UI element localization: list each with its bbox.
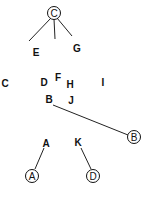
label-h: H [66,79,73,90]
label-i: I [102,77,105,88]
circle-node-d-label: D [89,171,96,182]
label-a: A [42,138,49,149]
label-k: K [74,137,82,148]
edge-c-to-g [57,18,72,36]
circle-node-d: D [87,170,100,183]
circle-node-c-label: C [50,8,57,19]
diagram-canvas: C B A D E G C D F H I B J A K [0,0,145,219]
label-e: E [33,47,40,58]
label-j: J [68,95,74,106]
label-f: F [55,72,61,83]
circle-node-b-label: B [131,132,138,143]
label-g: G [73,43,81,54]
circle-node-c: C [48,7,61,20]
circle-node-a-label: A [29,171,36,182]
circle-node-a: A [26,170,39,183]
edge-k-to-circle-d [81,148,91,169]
circle-node-b: B [128,131,141,144]
label-b: B [45,94,52,105]
label-d: D [40,77,47,88]
label-c: C [1,78,8,89]
edge-a-to-circle-a [35,148,44,169]
edge-b-to-circle-b [53,105,128,135]
edge-c-to-middle [54,19,55,39]
edge-c-to-e [29,18,51,41]
